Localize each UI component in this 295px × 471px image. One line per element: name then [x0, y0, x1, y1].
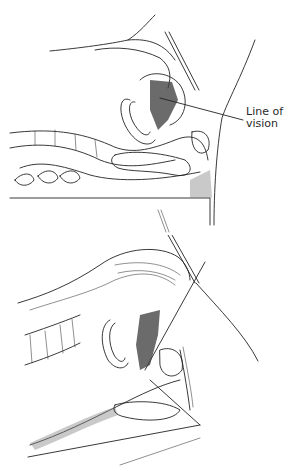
anatomy-illustration-top: Line ofvision: [0, 0, 295, 235]
line-of-vision-label-top: Line ofvision: [246, 106, 283, 130]
sagittal-section-drawing-bottom: [0, 235, 295, 471]
label-line-2: vision: [246, 117, 278, 130]
anatomy-illustration-bottom: Line ofvision: [0, 235, 295, 471]
